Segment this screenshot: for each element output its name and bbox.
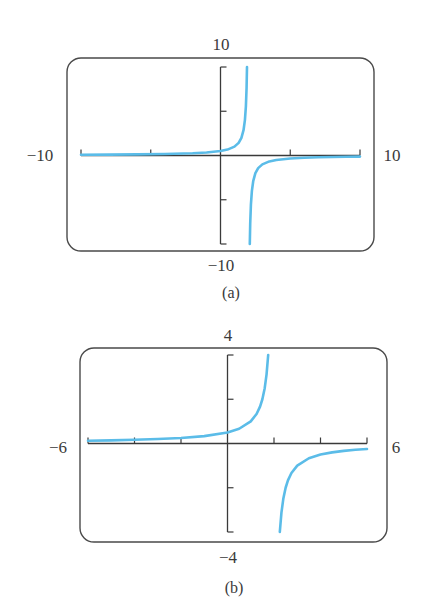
figure-canvas xyxy=(0,0,429,615)
panel-b-ymin-label: −4 xyxy=(219,549,237,566)
curve-right-branch xyxy=(280,449,367,532)
panel-a-ymax-label: 10 xyxy=(213,36,230,53)
panel-a-xmax-label: 10 xyxy=(384,147,401,164)
graph-panel-a xyxy=(67,58,374,251)
panel-b-xmin-label: −6 xyxy=(49,439,67,456)
graph-panel-b xyxy=(80,348,387,542)
graph-frame xyxy=(80,348,387,542)
panel-b-xmax-label: 6 xyxy=(392,439,401,456)
panel-b-ymax-label: 4 xyxy=(224,327,233,344)
panel-a-ymin-label: −10 xyxy=(208,257,235,274)
panel-b-caption: (b) xyxy=(225,580,244,596)
panel-a-xmin-label: −10 xyxy=(27,147,54,164)
curve-left-branch xyxy=(88,355,268,441)
curve-right-branch xyxy=(250,157,360,244)
panel-a-caption: (a) xyxy=(222,285,240,301)
